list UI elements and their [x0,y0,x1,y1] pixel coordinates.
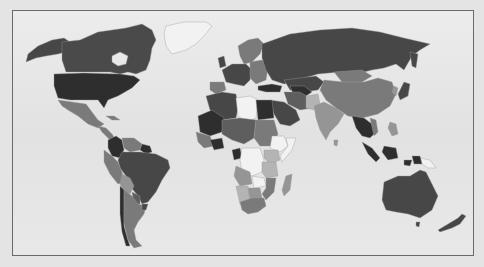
region-egypt[interactable] [256,100,274,120]
region-japan[interactable] [398,82,410,100]
region-australia[interactable] [382,170,438,218]
region-tasmania[interactable] [416,222,420,227]
region-niger-chad[interactable] [222,118,256,144]
region-mexico[interactable] [58,100,104,128]
region-zambia[interactable] [252,176,266,188]
map-page [0,0,484,267]
region-new-zealand[interactable] [438,214,466,232]
region-sri-lanka[interactable] [334,140,338,146]
region-uruguay[interactable] [142,204,148,210]
region-venezuela[interactable] [122,138,142,152]
region-papua-new-guinea[interactable] [420,158,436,168]
region-madagascar[interactable] [282,174,292,196]
region-greenland[interactable] [164,22,212,54]
region-nigeria[interactable] [210,138,224,150]
region-canada[interactable] [62,24,156,74]
region-turkey[interactable] [258,84,282,92]
region-cuba[interactable] [106,116,120,120]
region-scandinavia[interactable] [238,38,264,64]
region-kamchatka[interactable] [410,52,418,68]
region-uk[interactable] [218,56,226,68]
region-western-europe[interactable] [222,64,252,86]
world-choropleth-map[interactable] [0,0,484,267]
region-mongolia[interactable] [334,70,372,82]
region-new-guinea-west[interactable] [412,156,422,164]
region-tanzania[interactable] [262,162,278,178]
region-indonesia[interactable] [362,142,412,166]
region-philippines[interactable] [388,122,398,136]
